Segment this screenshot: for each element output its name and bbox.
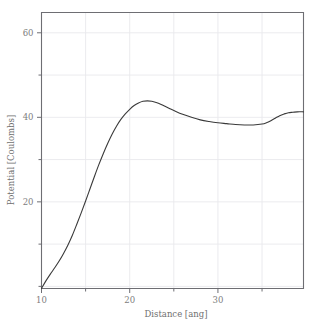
x-tick-label: 20 [124, 295, 135, 305]
y-tick-label: 40 [23, 112, 34, 122]
x-tick-label: 30 [213, 295, 224, 305]
chart-svg: 102030 204060 Distance [ang] Potential [… [0, 0, 312, 323]
y-tick-label: 20 [23, 197, 34, 207]
x-tick-label: 10 [36, 295, 47, 305]
y-axis-label: Potential [Coulombs] [6, 115, 16, 205]
chart-container: 102030 204060 Distance [ang] Potential [… [0, 0, 312, 323]
y-tick-label: 60 [23, 28, 34, 38]
x-axis-label: Distance [ang] [145, 309, 208, 319]
chart-background [0, 0, 312, 323]
